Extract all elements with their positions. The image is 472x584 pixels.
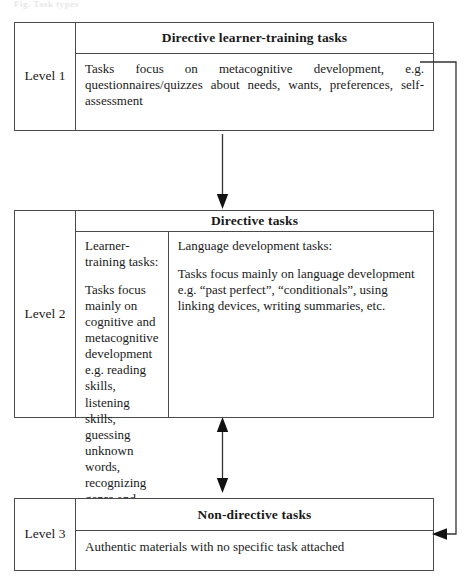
level-1-box: Level 1 Directive learner-training tasks…	[14, 22, 434, 131]
level-3-heading: Non-directive tasks	[76, 499, 433, 531]
level-3-body: Authentic materials with no specific tas…	[76, 531, 433, 570]
arrow-level-2-to-level-3-icon	[206, 415, 240, 495]
level-2-language-development-description: Tasks focus mainly on language developme…	[178, 266, 424, 314]
arrow-level-1-to-level-2-icon	[206, 131, 240, 211]
level-2-learner-training-subheading: Learner-training tasks:	[85, 238, 159, 270]
level-2-body: Learner-training tasks: Tasks focus main…	[76, 232, 433, 417]
level-3-description: Authentic materials with no specific tas…	[76, 531, 353, 570]
level-1-heading: Directive learner-training tasks	[76, 23, 433, 54]
level-2-box: Level 2 Directive tasks Learner-training…	[14, 210, 434, 418]
level-3-box: Level 3 Non-directive tasks Authentic ma…	[14, 498, 434, 571]
level-1-content: Directive learner-training tasks Tasks f…	[76, 23, 433, 130]
level-3-content: Non-directive tasks Authentic materials …	[76, 499, 433, 570]
level-2-language-development-subheading: Language development tasks:	[178, 238, 424, 254]
page-running-header: Fig. Task types	[14, 0, 214, 9]
level-1-description: Tasks focus on metacognitive development…	[76, 54, 433, 130]
level-3-label: Level 3	[15, 499, 76, 570]
diagram-canvas: Fig. Task types Level 1 Directive learne…	[0, 0, 472, 584]
level-2-heading: Directive tasks	[76, 211, 433, 232]
level-1-body: Tasks focus on metacognitive development…	[76, 54, 433, 130]
level-2-label: Level 2	[15, 211, 76, 417]
level-2-content: Directive tasks Learner-training tasks: …	[76, 211, 433, 417]
level-1-label: Level 1	[15, 23, 76, 130]
level-2-language-development-column: Language development tasks: Tasks focus …	[169, 232, 433, 417]
level-2-learner-training-column: Learner-training tasks: Tasks focus main…	[76, 232, 169, 417]
